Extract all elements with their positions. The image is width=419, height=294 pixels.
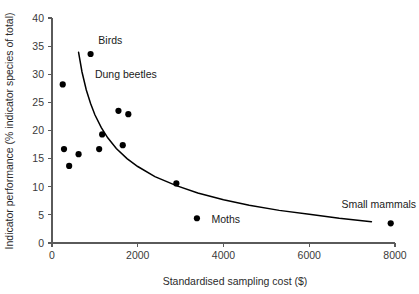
x-tick-label: 6000 [298, 249, 322, 261]
x-axis-title: Standardised sampling cost ($) [163, 275, 308, 287]
y-tick-label: 10 [32, 181, 44, 193]
data-point [75, 151, 81, 157]
series-label-birds: Birds [98, 34, 122, 46]
y-tick-label: 5 [38, 209, 44, 221]
x-axis-ticks: 02000400060008000 [49, 243, 407, 261]
y-tick-label: 20 [32, 124, 44, 136]
data-point [115, 108, 121, 114]
x-tick-label: 0 [49, 249, 55, 261]
data-point [120, 142, 126, 148]
data-point [96, 146, 102, 152]
x-axis-group: 02000400060008000 [49, 243, 407, 261]
x-tick-label: 4000 [212, 249, 236, 261]
series-label-dung-beetles: Dung beetles [95, 68, 157, 80]
data-point [388, 220, 394, 226]
data-point [66, 163, 72, 169]
data-point [61, 146, 67, 152]
chart-container: 0510152025303540 02000400060008000 Birds… [0, 0, 419, 294]
y-tick-label: 40 [32, 12, 44, 24]
y-tick-label: 30 [32, 68, 44, 80]
y-axis-title: Indicator performance (% indicator speci… [3, 13, 15, 250]
data-point [60, 81, 66, 87]
y-tick-label: 15 [32, 152, 44, 164]
x-tick-label: 8000 [383, 249, 407, 261]
data-point [87, 51, 93, 57]
scatter-plot: 0510152025303540 02000400060008000 Birds… [0, 0, 419, 294]
annotation-group: BirdsDung beetlesMothsSmall mammals [95, 34, 416, 225]
y-axis-group: 0510152025303540 [32, 12, 52, 249]
x-tick-label: 2000 [126, 249, 150, 261]
data-point [173, 180, 179, 186]
data-point [194, 215, 200, 221]
y-tick-label: 25 [32, 96, 44, 108]
y-tick-label: 0 [38, 237, 44, 249]
series-label-moths: Moths [211, 213, 240, 225]
series-label-small-mammals: Small mammals [341, 198, 416, 210]
data-point [99, 131, 105, 137]
y-tick-label: 35 [32, 40, 44, 52]
data-point [125, 111, 131, 117]
y-axis-ticks: 0510152025303540 [32, 12, 52, 249]
